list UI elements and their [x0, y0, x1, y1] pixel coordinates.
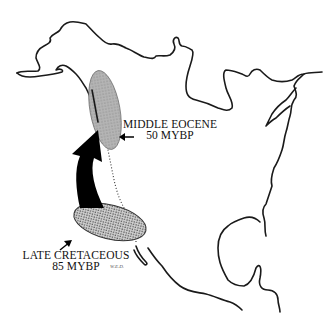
coastline-gulf [218, 217, 280, 312]
north-america-map [0, 0, 325, 323]
middle-eocene-label: MIDDLE EOCENE 50 MYBP [120, 119, 220, 141]
middle-eocene-label-line2: 50 MYBP [120, 130, 220, 141]
alaska-peninsula [17, 65, 98, 124]
migration-arrow [72, 130, 104, 208]
artist-signature: W.E.D. [110, 264, 124, 269]
coastline-north [17, 22, 322, 111]
coastline-hudson-east [263, 74, 304, 236]
